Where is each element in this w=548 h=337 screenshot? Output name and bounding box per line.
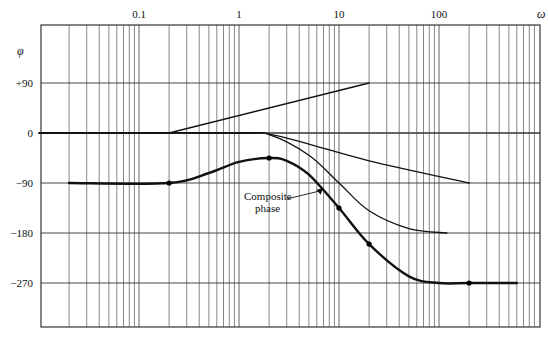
composite-phase-curve [69, 158, 517, 284]
data-point-marker [167, 180, 172, 185]
x-axis-tick-labels: 0.1110100 [132, 8, 448, 20]
y-axis-tick-labels: +900−90−180−270 [10, 77, 33, 289]
data-point-marker [336, 205, 341, 210]
y-tick-label: −90 [16, 177, 34, 189]
annotation-arrow-line [287, 191, 321, 199]
data-point-marker [267, 155, 272, 160]
x-tick-label: 1 [236, 8, 242, 20]
grid-lines [41, 25, 540, 327]
composite-markers [167, 155, 472, 285]
y-tick-label: 0 [28, 127, 34, 139]
y-axis-label: φ [17, 44, 24, 58]
annotation-line-2: phase [255, 202, 280, 214]
component-phase-curve [39, 83, 369, 133]
x-axis-label: ω [537, 7, 545, 21]
x-tick-label: 0.1 [132, 8, 146, 20]
y-tick-label: +90 [16, 77, 34, 89]
x-tick-label: 100 [431, 8, 448, 20]
plot-border [41, 25, 540, 327]
x-tick-label: 10 [334, 8, 346, 20]
plot-frame [41, 25, 540, 327]
annotation-line-1: Composite [244, 190, 292, 202]
data-point-marker [367, 242, 372, 247]
bode-phase-chart: 0.1110100 +900−90−180−270 ω φ Composite … [0, 0, 548, 337]
composite-phase-annotation: Composite phase [244, 188, 324, 214]
data-point-marker [467, 280, 472, 285]
y-tick-label: −270 [10, 277, 33, 289]
y-tick-label: −180 [10, 227, 33, 239]
